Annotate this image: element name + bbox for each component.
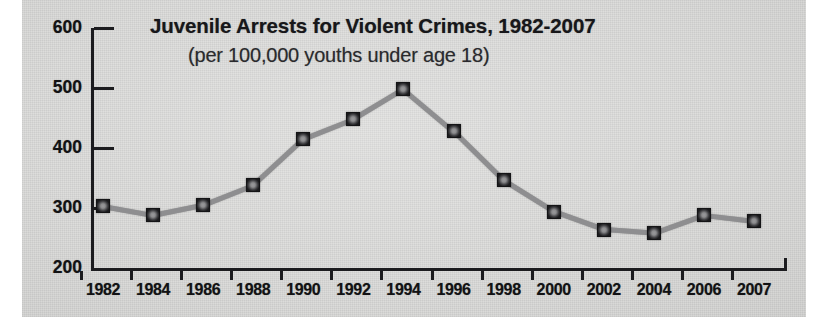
x-axis-tick (731, 271, 734, 280)
x-axis-tick (230, 271, 233, 280)
data-point-marker (697, 208, 711, 222)
x-axis-end-cap (784, 258, 787, 269)
x-axis-tick (280, 271, 283, 280)
chart-title: Juvenile Arrests for Violent Crimes, 198… (150, 14, 595, 38)
data-point-marker (146, 208, 160, 222)
y-axis-label: 400 (28, 137, 82, 158)
x-axis-tick (481, 271, 484, 280)
data-point-marker (547, 205, 561, 219)
data-point-marker (296, 132, 310, 146)
x-axis-tick (531, 271, 534, 280)
data-point-marker (497, 173, 511, 187)
y-axis-label: 200 (28, 257, 82, 278)
x-axis-tick (330, 271, 333, 280)
data-point-marker (196, 198, 210, 212)
data-point-marker (647, 226, 661, 240)
x-axis-tick (80, 271, 83, 280)
y-axis-label: 600 (28, 17, 82, 38)
x-axis-tick (180, 271, 183, 280)
y-axis-label: 300 (28, 197, 82, 218)
y-axis-tick (94, 27, 114, 30)
line-chart: Juvenile Arrests for Violent Crimes, 198… (0, 0, 826, 317)
x-axis-tick (681, 271, 684, 280)
y-axis-tick (94, 147, 114, 150)
chart-subtitle: (per 100,000 youths under age 18) (188, 44, 489, 67)
data-point-marker (396, 82, 410, 96)
x-axis-tick (380, 271, 383, 280)
y-axis-tick (94, 87, 114, 90)
x-axis-tick (431, 271, 434, 280)
x-axis-tick (581, 271, 584, 280)
data-point-marker (447, 124, 461, 138)
chart-figure: Juvenile Arrests for Violent Crimes, 198… (0, 0, 826, 317)
data-point-marker (747, 214, 761, 228)
data-point-marker (246, 178, 260, 192)
data-point-marker (96, 199, 110, 213)
x-axis-label: 2007 (724, 281, 784, 299)
data-point-marker (346, 112, 360, 126)
data-point-marker (597, 223, 611, 237)
x-axis-tick (631, 271, 634, 280)
y-axis-label: 500 (28, 77, 82, 98)
x-axis-tick (130, 271, 133, 280)
